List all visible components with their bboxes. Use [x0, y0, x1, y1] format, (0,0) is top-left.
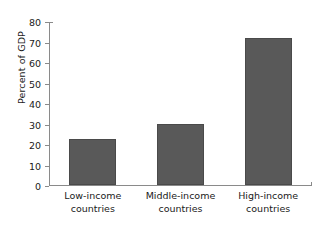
- y-tick: 80: [45, 22, 49, 23]
- category-label-line: Middle-income: [137, 190, 225, 203]
- y-tick-label: 0: [35, 181, 41, 192]
- bar: [157, 124, 204, 186]
- x-axis-line: [49, 185, 312, 186]
- bar: [69, 139, 116, 185]
- y-tick: 50: [45, 84, 49, 85]
- y-tick-label: 30: [29, 119, 41, 130]
- y-axis-line: [49, 22, 50, 186]
- y-tick: 20: [45, 145, 49, 146]
- category-label-line: countries: [49, 203, 137, 216]
- bar-chart: Percent of GDP 01020304050607080 Low-inc…: [0, 0, 327, 230]
- x-axis-category-label: Middle-incomecountries: [137, 190, 225, 215]
- y-tick-label: 40: [29, 99, 41, 110]
- category-label-line: countries: [224, 203, 312, 216]
- y-tick-label: 20: [29, 140, 41, 151]
- y-tick: 40: [45, 104, 49, 105]
- x-axis-right-cap: [311, 182, 312, 186]
- bar: [245, 38, 292, 185]
- y-tick-label: 50: [29, 78, 41, 89]
- y-tick: 60: [45, 63, 49, 64]
- plot-area: 01020304050607080: [49, 22, 312, 186]
- y-tick-label: 60: [29, 58, 41, 69]
- category-label-line: Low-income: [49, 190, 137, 203]
- y-tick-label: 70: [29, 37, 41, 48]
- category-label-line: countries: [137, 203, 225, 216]
- x-axis-category-label: Low-incomecountries: [49, 190, 137, 215]
- y-tick: 10: [45, 166, 49, 167]
- y-tick-label: 80: [29, 17, 41, 28]
- y-tick: 70: [45, 43, 49, 44]
- category-label-line: High-income: [224, 190, 312, 203]
- y-tick: 30: [45, 125, 49, 126]
- x-axis-category-label: High-incomecountries: [224, 190, 312, 215]
- y-axis-title: Percent of GDP: [16, 13, 27, 123]
- y-tick-label: 10: [29, 160, 41, 171]
- y-tick: 0: [45, 186, 49, 187]
- y-axis-top-cap: [49, 22, 53, 23]
